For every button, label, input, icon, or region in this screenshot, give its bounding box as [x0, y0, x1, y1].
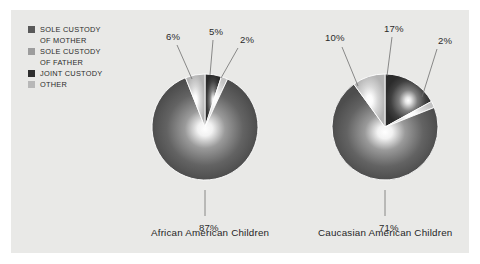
legend-item-sole-custody-of-father: SOLE CUSTODY: [28, 46, 148, 57]
caption-caucasian-american-children: Caucasian American Children: [318, 227, 452, 238]
pct-label-african-american-children-other: 2%: [240, 34, 254, 45]
pct-label-caucasian-american-children-sole-custody-of-father: 10%: [325, 32, 345, 43]
legend-label-sole-custody-of-mother: SOLE CUSTODY: [40, 24, 101, 35]
legend-swatch-joint-custody: [28, 70, 35, 77]
legend-label-other: OTHER: [40, 79, 67, 90]
pct-label-african-american-children-sole-custody-of-father: 6%: [166, 31, 180, 42]
legend-swatch-sole-custody-of-mother: [28, 26, 35, 33]
legend-item-sole-custody-of-mother: SOLE CUSTODY: [28, 24, 148, 35]
legend-label-sole-custody-of-mother-line2: OF MOTHER: [40, 35, 148, 46]
figure-root: SOLE CUSTODY OF MOTHER SOLE CUSTODY OF F…: [0, 0, 480, 264]
legend-swatch-other: [28, 81, 35, 88]
legend: SOLE CUSTODY OF MOTHER SOLE CUSTODY OF F…: [28, 24, 148, 90]
caption-african-american-children: African American Children: [151, 227, 269, 238]
legend-item-joint-custody: JOINT CUSTODY: [28, 68, 148, 79]
legend-swatch-sole-custody-of-father: [28, 48, 35, 55]
pct-label-african-american-children-joint-custody: 5%: [209, 26, 223, 37]
legend-label-sole-custody-of-father: SOLE CUSTODY: [40, 46, 101, 57]
legend-label-sole-custody-of-father-line2: OF FATHER: [40, 57, 148, 68]
pct-label-caucasian-american-children-joint-custody: 17%: [384, 23, 404, 34]
pct-label-caucasian-american-children-other: 2%: [438, 35, 452, 46]
legend-label-joint-custody: JOINT CUSTODY: [40, 68, 103, 79]
legend-item-other: OTHER: [28, 79, 148, 90]
